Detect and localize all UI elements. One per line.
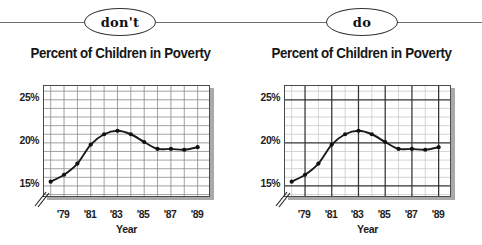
x-tick-label: '85 — [372, 208, 395, 220]
divider-line — [0, 22, 482, 23]
x-tick-label: '83 — [346, 208, 369, 220]
chart-title-dont: Percent of Children in Poverty — [10, 45, 232, 61]
y-tick-label: 20% — [3, 134, 39, 146]
x-axis-title-do: Year — [291, 223, 445, 235]
x-tick-label: '87 — [158, 208, 181, 220]
chart-panel-dont: Percent of Children in Poverty Year 15%2… — [0, 40, 241, 245]
y-axis-break-dont — [33, 190, 51, 210]
plot-area-do — [284, 85, 451, 197]
chart-panel-do: Percent of Children in Poverty Year 15%2… — [241, 40, 482, 245]
x-tick-label: '85 — [131, 208, 154, 220]
x-tick-label: '79 — [51, 208, 74, 220]
badge-do: do — [326, 8, 398, 36]
chart-title-do: Percent of Children in Poverty — [251, 45, 473, 61]
x-tick-label: '79 — [292, 208, 315, 220]
y-tick-label: 25% — [3, 91, 39, 103]
badge-do-label: do — [353, 16, 371, 29]
plot-area-dont — [43, 85, 210, 197]
x-tick-label: '89 — [185, 208, 208, 220]
badge-dont: don't — [84, 8, 156, 36]
y-tick-label: 15% — [3, 177, 39, 189]
x-tick-label: '89 — [426, 208, 449, 220]
x-tick-label: '81 — [78, 208, 101, 220]
y-tick-label: 25% — [244, 91, 280, 103]
comparison-divider-row: don't do — [0, 0, 482, 44]
y-tick-label: 15% — [244, 177, 280, 189]
badge-dont-label: don't — [101, 16, 140, 29]
x-axis-title-dont: Year — [50, 223, 204, 235]
y-axis-break-do — [274, 190, 292, 210]
x-tick-label: '83 — [105, 208, 128, 220]
x-tick-label: '81 — [319, 208, 342, 220]
x-tick-label: '87 — [399, 208, 422, 220]
y-tick-label: 20% — [244, 134, 280, 146]
